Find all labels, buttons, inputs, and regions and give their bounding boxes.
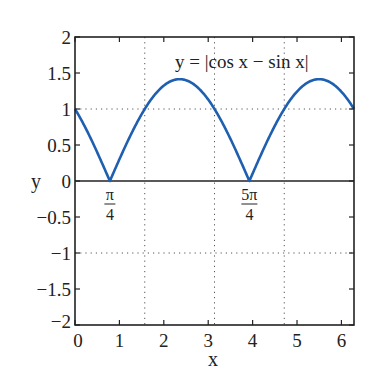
x-tick-label: 6	[337, 330, 347, 351]
y-tick-label: 1	[62, 99, 72, 120]
y-tick-labels: 21.510.50−0.5−1−1.5−2	[37, 27, 71, 332]
y-tick-label: −0.5	[37, 207, 71, 228]
y-tick-label: 0.5	[47, 135, 71, 156]
svg-text:5π: 5π	[241, 186, 257, 203]
y-tick-label: −1.5	[37, 279, 71, 300]
svg-text:4: 4	[245, 206, 253, 223]
fraction-label: π4	[104, 186, 115, 223]
svg-text:π: π	[106, 186, 114, 203]
x-axis-label: x	[208, 348, 218, 370]
y-tick-label: 1.5	[47, 63, 71, 84]
y-tick-label: 0	[62, 171, 72, 192]
x-tick-label: 0	[73, 330, 83, 351]
chart: 0123456 21.510.50−0.5−1−1.5−2 π45π4 y = …	[0, 0, 379, 382]
y-tick-label: −1	[51, 243, 71, 264]
svg-text:4: 4	[106, 206, 114, 223]
fraction-label: 5π4	[241, 186, 257, 223]
x-tick-label: 1	[115, 330, 125, 351]
y-axis-label: y	[31, 170, 41, 193]
y-tick-label: 2	[62, 27, 72, 48]
x-tick-label: 5	[292, 330, 302, 351]
x-tick-label: 2	[159, 330, 169, 351]
special-x-labels: π45π4	[104, 186, 257, 223]
function-annotation: y = |cos x − sin x|	[175, 51, 309, 72]
x-tick-label: 4	[248, 330, 258, 351]
y-tick-label: −2	[51, 311, 71, 332]
